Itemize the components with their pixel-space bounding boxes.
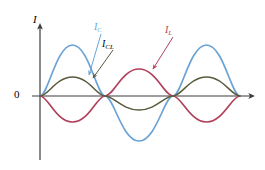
curve-label-ic-subscript: C <box>97 26 102 33</box>
leader-line-icl <box>93 50 113 78</box>
leader-line-il <box>153 37 173 69</box>
current-waveform-figure: I 0 IC ICL IL <box>0 0 265 170</box>
y-axis-zero-label: 0 <box>14 89 20 100</box>
waveform-plot <box>0 0 265 170</box>
curve-label-il: IL <box>165 25 172 35</box>
curve-label-ic: IC <box>94 22 102 32</box>
curve-ic <box>40 45 240 141</box>
curve-label-icl-subscript: CL <box>105 43 113 50</box>
curve-icl <box>40 77 240 110</box>
curve-label-il-subscript: L <box>168 29 172 36</box>
curve-label-icl: ICL <box>102 39 114 49</box>
y-axis-label: I <box>33 14 37 25</box>
